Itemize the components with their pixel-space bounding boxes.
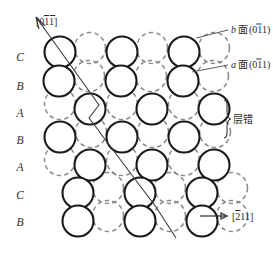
- overbar-211-digit1: [235, 210, 240, 211]
- atom-solid: [63, 206, 94, 237]
- layer-letter-A-2: A: [15, 161, 24, 173]
- layer-letter-A-1: A: [15, 107, 24, 119]
- atom-solid: [137, 150, 168, 181]
- atom-solid: [187, 206, 218, 237]
- atom-solid: [169, 122, 200, 153]
- atom-solid: [199, 150, 230, 181]
- direction-label-011-text: [011]: [36, 16, 57, 27]
- atom-dashed: [155, 201, 186, 232]
- atom-solid: [199, 94, 230, 125]
- overbar-digit3: [50, 15, 55, 16]
- atom-dashed: [75, 33, 106, 64]
- layer-letter-column: C B A B A C B: [15, 51, 24, 228]
- plane-label-a-prefix: a: [231, 59, 236, 70]
- atom-solid: [187, 178, 218, 209]
- atom-dashed: [93, 201, 124, 232]
- overbar-b-digit2: [256, 24, 261, 25]
- direction-label-011: [011]: [36, 15, 57, 27]
- layer-letter-B-3: B: [16, 216, 23, 228]
- layer-letter-B-1: B: [16, 80, 23, 92]
- a-plane-leader: [192, 65, 228, 72]
- atom-solid: [45, 122, 76, 153]
- plane-label-a-indices: (011): [249, 59, 270, 71]
- layer-letter-C-2: C: [16, 189, 24, 201]
- atom-dashed: [137, 33, 168, 64]
- atom-dashed: [199, 33, 230, 64]
- layer-letter-C-1: C: [16, 51, 24, 63]
- layer-letter-B-2: B: [16, 134, 23, 146]
- atom-solid: [107, 37, 138, 68]
- plane-label-a: a 面 (011): [231, 59, 270, 72]
- overbar-a-digit2: [256, 59, 261, 60]
- overbar-digit2: [44, 15, 49, 16]
- atom-solid: [45, 37, 76, 68]
- atom-solid: [75, 150, 106, 181]
- plane-label-a-cjk: 面: [238, 59, 248, 70]
- atom-solid: [63, 178, 94, 209]
- atom-solid: [168, 66, 199, 97]
- figure-root: C B A B A C B [011] b 面 (011) a 面 (011): [0, 0, 273, 256]
- plane-label-b-prefix: b: [231, 24, 236, 35]
- plane-label-b-letter: b: [231, 24, 236, 35]
- atom-solid: [125, 206, 156, 237]
- plane-label-b-cjk: 面: [238, 24, 248, 35]
- direction-label-211: [211]: [232, 210, 253, 222]
- atom-dashed: [198, 61, 229, 92]
- atom-solid: [106, 66, 137, 97]
- stacking-fault-label: 层错: [233, 113, 253, 125]
- atom-dashed: [136, 61, 167, 92]
- plane-label-b: b 面 (011): [231, 24, 270, 37]
- crystal-lattice-diagram: C B A B A C B [011] b 面 (011) a 面 (011): [0, 0, 273, 256]
- atom-solid: [137, 94, 168, 125]
- atom-solid: [44, 66, 75, 97]
- plane-label-a-letter: a: [231, 59, 236, 70]
- atom-solid: [169, 37, 200, 68]
- atom-solid: [125, 178, 156, 209]
- b-plane-leader: [196, 30, 228, 38]
- direction-label-211-text: [211]: [232, 211, 253, 222]
- plane-label-b-indices: (011): [249, 24, 270, 36]
